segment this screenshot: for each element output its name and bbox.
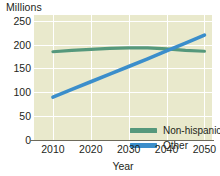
- y-axis-tick-label: 50: [1, 111, 31, 122]
- series-lines: [34, 15, 212, 140]
- x-axis-tick-label: 2030: [109, 144, 149, 155]
- x-axis-tick-label: 2040: [147, 144, 187, 155]
- y-axis-tick-label: 0: [1, 135, 31, 146]
- legend-item-non-hispanic-white: Non-hispanic white: [130, 125, 220, 136]
- series-line-non-hispanic-white: [53, 48, 204, 52]
- x-axis-tick-label: 2020: [71, 144, 111, 155]
- y-axis-tick-labels: 050100150200250: [0, 0, 31, 176]
- y-axis-tick-label: 150: [1, 63, 31, 74]
- x-axis-tick-label: 2050: [184, 144, 220, 155]
- legend-swatch-icon: [130, 128, 157, 133]
- y-axis-tick-label: 200: [1, 40, 31, 51]
- x-axis-title: Year: [34, 160, 212, 172]
- y-axis-tick-label: 250: [1, 16, 31, 27]
- x-axis-line: [30, 140, 214, 141]
- series-line-other: [53, 35, 204, 97]
- plot-area: Non-hispanic white Other: [34, 15, 212, 140]
- population-projection-chart: Millions 050100150200250 Non-hispanic wh…: [0, 0, 220, 176]
- x-axis-tick-label: 2010: [33, 144, 73, 155]
- legend-label: Non-hispanic white: [163, 126, 220, 136]
- y-axis-tick-label: 100: [1, 87, 31, 98]
